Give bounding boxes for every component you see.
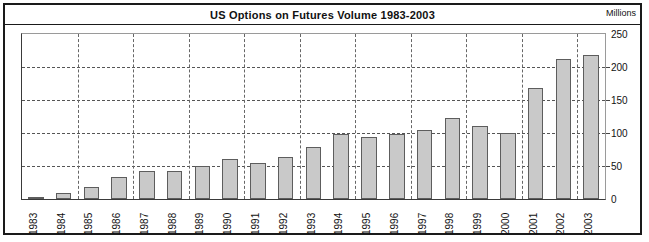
x-tick-label-1991: 1991 bbox=[250, 213, 261, 235]
bar-1985 bbox=[84, 187, 100, 199]
y-tick-label-200: 200 bbox=[611, 62, 628, 73]
y-tick-mark-150 bbox=[606, 100, 610, 101]
x-tick-label-1989: 1989 bbox=[194, 213, 205, 235]
y-tick-label-150: 150 bbox=[611, 95, 628, 106]
x-axis: 1983198419851986198719881989199019911992… bbox=[21, 201, 606, 235]
y-tick-label-50: 50 bbox=[611, 161, 622, 172]
x-tick-label-1999: 1999 bbox=[472, 213, 483, 235]
y-tick-mark-200 bbox=[606, 67, 610, 68]
bar-1989 bbox=[195, 166, 211, 199]
x-tick-label-1993: 1993 bbox=[306, 213, 317, 235]
x-tick-label-1986: 1986 bbox=[111, 213, 122, 235]
x-tick-label-1995: 1995 bbox=[361, 213, 372, 235]
page-title: US Options on Futures Volume 1983-2003 bbox=[5, 5, 640, 24]
y-tick-label-100: 100 bbox=[611, 128, 628, 139]
bar-2002 bbox=[556, 59, 572, 199]
x-tick-label-1987: 1987 bbox=[139, 213, 150, 235]
bar-1990 bbox=[222, 159, 238, 199]
x-tick-label-2000: 2000 bbox=[500, 213, 511, 235]
bar-1997 bbox=[417, 130, 433, 199]
bar-1996 bbox=[389, 134, 405, 199]
chart-title-bar: US Options on Futures Volume 1983-2003 bbox=[5, 5, 640, 25]
bar-1993 bbox=[306, 147, 322, 199]
bar-1998 bbox=[445, 118, 461, 199]
x-tick-label-1990: 1990 bbox=[222, 213, 233, 235]
y-axis: 050100150200250 bbox=[606, 25, 642, 207]
x-tick-label-1984: 1984 bbox=[56, 213, 67, 235]
x-tick-label-1992: 1992 bbox=[278, 213, 289, 235]
x-tick-label-1988: 1988 bbox=[167, 213, 178, 235]
bar-1991 bbox=[250, 163, 266, 199]
y-tick-label-250: 250 bbox=[611, 29, 628, 40]
chart-frame: US Options on Futures Volume 1983-2003 M… bbox=[3, 3, 642, 235]
plot-area bbox=[21, 33, 606, 200]
y-tick-mark-100 bbox=[606, 133, 610, 134]
bar-1987 bbox=[139, 171, 155, 199]
x-tick-label-2001: 2001 bbox=[528, 213, 539, 235]
x-tick-label-1997: 1997 bbox=[417, 213, 428, 235]
y-tick-mark-50 bbox=[606, 166, 610, 167]
bar-2000 bbox=[500, 133, 516, 199]
x-tick-label-1994: 1994 bbox=[333, 213, 344, 235]
bar-1984 bbox=[56, 193, 72, 199]
x-tick-label-1985: 1985 bbox=[83, 213, 94, 235]
bar-2001 bbox=[528, 88, 544, 199]
x-tick-label-1996: 1996 bbox=[389, 213, 400, 235]
bar-1994 bbox=[333, 134, 349, 199]
bar-1999 bbox=[472, 126, 488, 199]
y-axis-units-label: Millions bbox=[606, 8, 636, 18]
x-tick-label-1983: 1983 bbox=[28, 213, 39, 235]
bar-1992 bbox=[278, 157, 294, 199]
bar-1988 bbox=[167, 171, 183, 199]
y-tick-label-0: 0 bbox=[611, 194, 617, 205]
bar-1995 bbox=[361, 137, 377, 199]
bar-2003 bbox=[583, 55, 599, 199]
x-tick-label-1998: 1998 bbox=[444, 213, 455, 235]
bar-1983 bbox=[28, 197, 44, 199]
x-tick-label-2003: 2003 bbox=[583, 213, 594, 235]
bar-series bbox=[22, 34, 605, 199]
bar-1986 bbox=[111, 177, 127, 199]
x-tick-label-2002: 2002 bbox=[555, 213, 566, 235]
